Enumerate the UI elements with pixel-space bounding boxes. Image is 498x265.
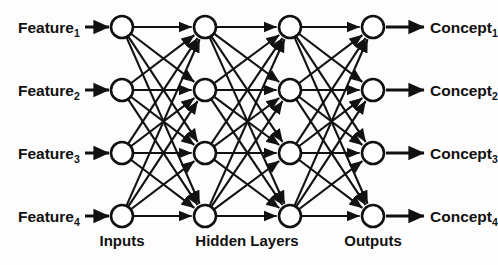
network-canvas: Feature1Feature2Feature3Feature4Concept1… [0,0,498,265]
output-label-2: Concept2 [430,82,498,102]
neuron-node-inputs-1 [111,16,133,38]
neuron-node-outputs-2 [362,79,384,101]
neuron-node-hidden-2-3 [279,142,301,164]
neuron-node-hidden-1-4 [194,205,216,227]
neuron-node-hidden-1-3 [194,142,216,164]
neural-network-diagram: Feature1Feature2Feature3Feature4Concept1… [0,0,498,265]
layer-caption-2: Outputs [344,232,402,249]
input-label-3: Feature3 [18,145,80,165]
output-label-3: Concept3 [430,145,498,165]
neuron-node-outputs-4 [362,205,384,227]
edge-group [127,27,368,216]
input-label-1: Feature1 [18,19,80,39]
neuron-node-hidden-1-2 [194,79,216,101]
layer-caption-0: Inputs [100,232,145,249]
neuron-node-inputs-2 [111,79,133,101]
layer-caption-1: Hidden Layers [195,232,298,249]
neuron-node-outputs-1 [362,16,384,38]
caption-group: InputsHidden LayersOutputs [100,232,402,249]
output-label-1: Concept1 [430,19,498,39]
neuron-node-hidden-2-2 [279,79,301,101]
neuron-node-inputs-3 [111,142,133,164]
neuron-node-hidden-2-4 [279,205,301,227]
neuron-node-inputs-4 [111,205,133,227]
neuron-node-hidden-2-1 [279,16,301,38]
input-label-2: Feature2 [18,82,80,102]
output-label-4: Concept4 [430,208,498,228]
io-arrow-group [85,27,424,216]
neuron-node-hidden-1-1 [194,16,216,38]
neuron-node-outputs-3 [362,142,384,164]
input-label-4: Feature4 [18,208,80,228]
